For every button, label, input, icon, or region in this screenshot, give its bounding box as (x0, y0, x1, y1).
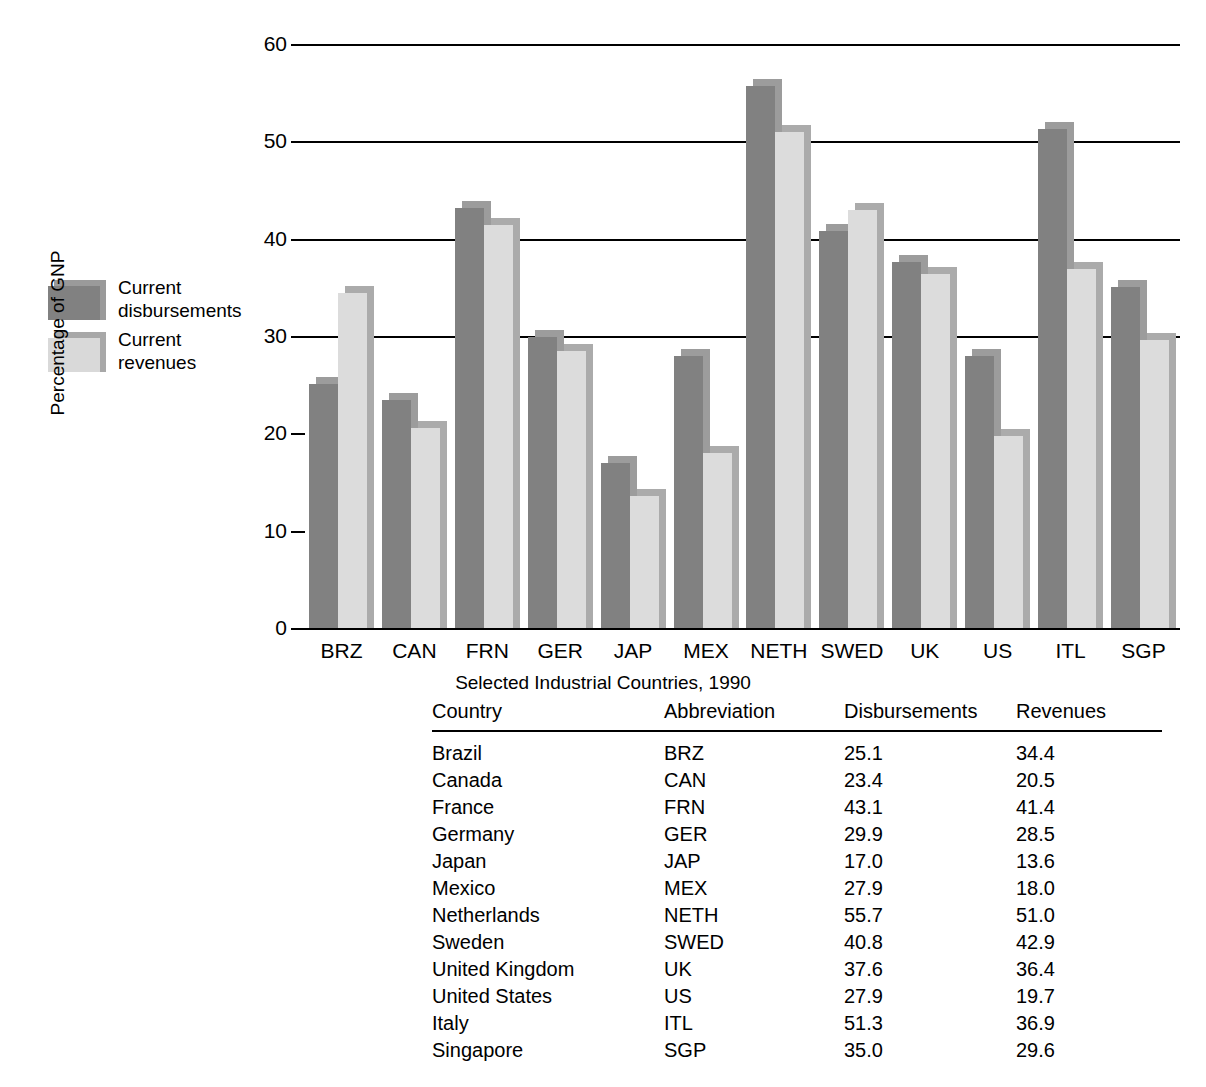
table-cell-disbursements: 43.1 (844, 794, 1016, 821)
bar-chart: Percentage of GNP 0102030405060 BRZCANFR… (0, 0, 1206, 700)
table-cell-disbursements: 55.7 (844, 902, 1016, 929)
bar-front-face (1111, 287, 1140, 628)
y-tick-label: 40 (243, 228, 287, 249)
y-tick-mark (291, 628, 305, 630)
y-tick-mark (291, 433, 305, 435)
table-cell-revenues: 36.4 (1016, 956, 1162, 983)
bar-front-face (1140, 340, 1169, 628)
table-cell-abbreviation: CAN (664, 767, 844, 794)
table-cell-country: Netherlands (432, 902, 664, 929)
bar-front-face (484, 225, 513, 628)
x-axis-title: Selected Industrial Countries, 1990 (0, 672, 1206, 694)
table-cell-country: United States (432, 983, 664, 1010)
bar-revenues (338, 286, 374, 628)
bar-side-face (1023, 429, 1030, 628)
bar-front-face (601, 463, 630, 628)
table-row: United StatesUS27.919.7 (432, 983, 1162, 1010)
table-cell-country: Japan (432, 848, 664, 875)
bar-side-face (877, 203, 884, 628)
bar-revenues (630, 489, 666, 628)
bar-side-face (367, 286, 374, 628)
y-tick-mark (291, 336, 305, 338)
y-tick-label: 30 (243, 325, 287, 346)
table-row: SwedenSWED40.842.9 (432, 929, 1162, 956)
bar-side-face (804, 125, 811, 628)
bar-revenues (848, 203, 884, 628)
table-cell-revenues: 13.6 (1016, 848, 1162, 875)
table-cell-revenues: 19.7 (1016, 983, 1162, 1010)
table-cell-disbursements: 17.0 (844, 848, 1016, 875)
table-cell-abbreviation: FRN (664, 794, 844, 821)
table-row: GermanyGER29.928.5 (432, 821, 1162, 848)
table-cell-disbursements: 27.9 (844, 983, 1016, 1010)
table-row: MexicoMEX27.918.0 (432, 875, 1162, 902)
bar-side-face (586, 344, 593, 628)
table-cell-disbursements: 29.9 (844, 821, 1016, 848)
bar-side-face (659, 489, 666, 628)
bar-side-face (1096, 262, 1103, 628)
bar-front-face (557, 351, 586, 628)
table-cell-abbreviation: MEX (664, 875, 844, 902)
y-tick-mark (291, 531, 305, 533)
bar-front-face (411, 428, 440, 628)
bar-revenues (411, 421, 447, 628)
table-cell-country: Italy (432, 1010, 664, 1037)
bar-side-face (513, 218, 520, 628)
bar-front-face (382, 400, 411, 628)
bar-front-face (455, 208, 484, 628)
table-cell-abbreviation: NETH (664, 902, 844, 929)
bar-front-face (338, 293, 367, 628)
bar-front-face (775, 132, 804, 628)
bar-side-face (440, 421, 447, 628)
bar-revenues (921, 267, 957, 628)
bar-revenues (775, 125, 811, 628)
bar-front-face (746, 86, 775, 628)
bar-front-face (965, 356, 994, 628)
bar-revenues (1140, 333, 1176, 628)
table-cell-revenues: 28.5 (1016, 821, 1162, 848)
table-cell-abbreviation: SWED (664, 929, 844, 956)
table-cell-abbreviation: GER (664, 821, 844, 848)
bar-front-face (892, 262, 921, 628)
table-cell-disbursements: 51.3 (844, 1010, 1016, 1037)
table-row: JapanJAP17.013.6 (432, 848, 1162, 875)
table-cell-disbursements: 35.0 (844, 1037, 1016, 1064)
table-cell-revenues: 29.6 (1016, 1037, 1162, 1064)
table-cell-disbursements: 23.4 (844, 767, 1016, 794)
x-axis-baseline (305, 628, 1180, 630)
table-row: ItalyITL51.336.9 (432, 1010, 1162, 1037)
bar-side-face (732, 446, 739, 628)
y-tick-label: 0 (243, 617, 287, 638)
table-row: BrazilBRZ25.134.4 (432, 731, 1162, 767)
y-tick-label: 20 (243, 422, 287, 443)
y-tick-mark (291, 141, 305, 143)
bar-front-face (674, 356, 703, 628)
bar-front-face (1067, 269, 1096, 628)
table-body: BrazilBRZ25.134.4CanadaCAN23.420.5France… (432, 731, 1162, 1064)
y-tick-label: 60 (243, 33, 287, 54)
table-cell-revenues: 18.0 (1016, 875, 1162, 902)
bar-front-face (703, 453, 732, 628)
gridline (305, 44, 1180, 46)
table-cell-disbursements: 37.6 (844, 956, 1016, 983)
table-cell-country: Brazil (432, 731, 664, 767)
bar-front-face (994, 436, 1023, 628)
table-header-abbreviation: Abbreviation (664, 700, 844, 731)
bar-revenues (557, 344, 593, 628)
table-cell-revenues: 42.9 (1016, 929, 1162, 956)
table-cell-country: United Kingdom (432, 956, 664, 983)
bar-front-face (528, 337, 557, 628)
table-cell-country: Mexico (432, 875, 664, 902)
bar-front-face (819, 231, 848, 628)
bar-side-face (950, 267, 957, 628)
table-row: FranceFRN43.141.4 (432, 794, 1162, 821)
table-cell-disbursements: 40.8 (844, 929, 1016, 956)
table-cell-abbreviation: BRZ (664, 731, 844, 767)
bar-front-face (921, 274, 950, 628)
table-header-country: Country (432, 700, 664, 731)
table-cell-abbreviation: ITL (664, 1010, 844, 1037)
table-cell-country: France (432, 794, 664, 821)
table-cell-country: Canada (432, 767, 664, 794)
table-row: United KingdomUK37.636.4 (432, 956, 1162, 983)
table-cell-abbreviation: JAP (664, 848, 844, 875)
